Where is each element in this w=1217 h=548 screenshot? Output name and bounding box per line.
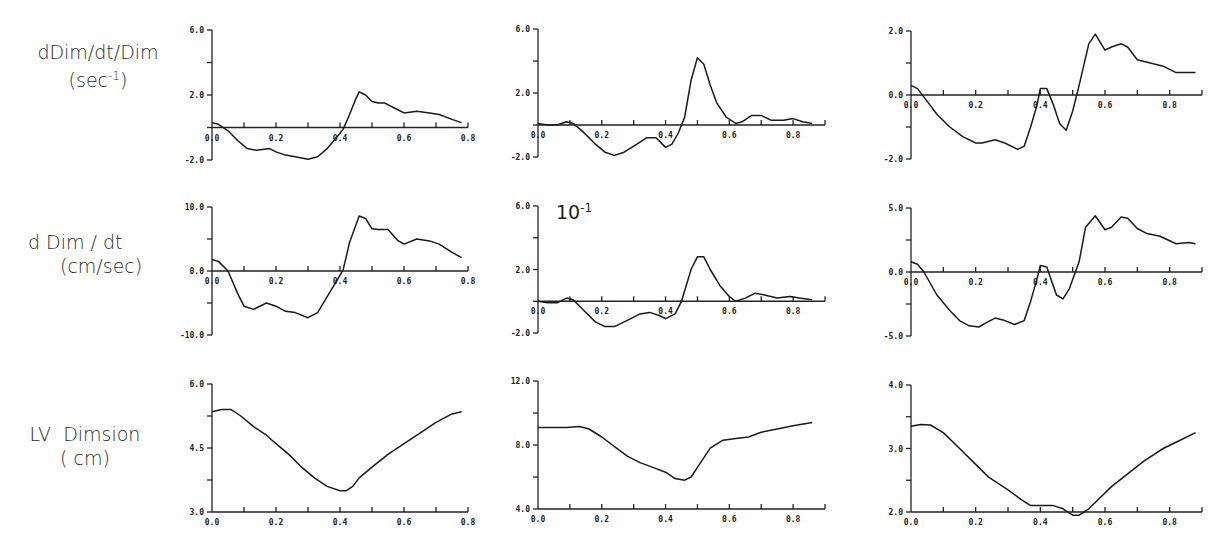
- x-tick-label: 0.8: [461, 518, 476, 527]
- y-tick-label: 2.0: [516, 89, 531, 98]
- x-tick-label: 0.0: [904, 518, 919, 527]
- x-tick-label: 0.2: [595, 515, 610, 524]
- x-tick-label: 0.0: [205, 277, 220, 286]
- x-tick-label: 0.0: [531, 307, 546, 316]
- y-tick-label: 2.0: [516, 266, 531, 275]
- y-tick-label: 6.0: [516, 202, 531, 211]
- y-tick-label: 3.0: [190, 508, 205, 517]
- x-tick-label: 0.0: [205, 518, 220, 527]
- row-label-line2: ( cm): [20, 446, 150, 470]
- data-curve: [212, 216, 462, 318]
- x-tick-label: 0.2: [968, 278, 983, 287]
- y-tick-label: 6.0: [516, 25, 531, 34]
- x-tick-label: 0.4: [658, 515, 673, 524]
- scale-factor-note: 10-1: [556, 201, 592, 223]
- x-tick-label: 0.2: [968, 101, 983, 110]
- y-tick-label: -2.0: [185, 156, 204, 165]
- panel-r1-c2: -5.00.05.00.00.20.40.60.8: [884, 204, 1202, 341]
- x-tick-label: 0.6: [722, 131, 737, 140]
- panel-r0-c2: -2.00.02.00.00.20.40.60.8: [884, 27, 1202, 164]
- x-tick-label: 0.8: [1162, 101, 1177, 110]
- figure: -2.02.06.00.00.20.40.60.8-2.02.06.00.00.…: [0, 0, 1217, 548]
- data-curve: [538, 423, 812, 481]
- panel-r0-c0: -2.02.06.00.00.20.40.60.8: [185, 26, 476, 165]
- panel-r0-c1: -2.02.06.00.00.20.40.60.8: [511, 25, 825, 162]
- y-tick-label: 3.0: [889, 445, 904, 454]
- row-label-line2: (cm/sec): [20, 254, 180, 278]
- y-tick-label: 12.0: [511, 377, 530, 386]
- x-tick-label: 0.4: [1033, 518, 1048, 527]
- x-tick-label: 0.2: [595, 131, 610, 140]
- panel-r1-c0: -10.00.010.00.00.20.40.60.8: [180, 203, 476, 340]
- x-tick-label: 0.8: [1162, 278, 1177, 287]
- data-curve: [911, 424, 1196, 515]
- data-curve: [538, 58, 812, 156]
- x-tick-label: 0.2: [269, 277, 284, 286]
- x-tick-label: 0.6: [397, 277, 412, 286]
- x-tick-label: 0.0: [205, 134, 220, 143]
- y-tick-label: 6.0: [190, 380, 205, 389]
- x-tick-label: 0.8: [786, 515, 801, 524]
- x-tick-label: 0.6: [722, 515, 737, 524]
- data-curve: [212, 410, 462, 491]
- x-tick-label: 0.6: [1098, 278, 1113, 287]
- x-tick-label: 0.0: [904, 278, 919, 287]
- y-tick-label: 8.0: [516, 441, 531, 450]
- y-tick-label: 5.0: [889, 204, 904, 213]
- x-tick-label: 0.6: [1098, 518, 1113, 527]
- y-tick-label: 0.0: [190, 267, 205, 276]
- y-tick-label: -2.0: [511, 329, 530, 338]
- row-label-line1: d Dim / dt: [20, 230, 180, 254]
- y-tick-label: 4.0: [516, 505, 531, 514]
- y-tick-label: -5.0: [884, 332, 903, 341]
- x-tick-label: 0.0: [531, 515, 546, 524]
- row-label-relative-rate: dDim/dt/Dim (sec-1): [18, 40, 178, 92]
- x-tick-label: 0.0: [904, 101, 919, 110]
- x-tick-label: 0.2: [968, 518, 983, 527]
- x-tick-label: 0.2: [595, 307, 610, 316]
- x-tick-label: 0.4: [658, 307, 673, 316]
- y-tick-label: 4.0: [889, 381, 904, 390]
- x-tick-label: 0.4: [333, 134, 348, 143]
- x-tick-label: 0.6: [1098, 101, 1113, 110]
- y-tick-label: 0.0: [889, 268, 904, 277]
- x-tick-label: 0.8: [1162, 518, 1177, 527]
- x-tick-label: 0.6: [397, 134, 412, 143]
- y-tick-label: 2.0: [889, 508, 904, 517]
- data-curve: [538, 257, 812, 327]
- row-label-line1: LV Dimsion: [20, 422, 150, 446]
- x-tick-label: 0.4: [333, 518, 348, 527]
- y-tick-label: 2.0: [889, 27, 904, 36]
- x-tick-label: 0.4: [658, 131, 673, 140]
- y-tick-label: -10.0: [180, 331, 204, 340]
- y-tick-label: -2.0: [884, 155, 903, 164]
- x-tick-label: 0.2: [269, 518, 284, 527]
- x-tick-label: 0.8: [786, 307, 801, 316]
- x-tick-label: 0.8: [461, 134, 476, 143]
- y-tick-label: 2.0: [190, 91, 205, 100]
- x-tick-label: 0.8: [461, 277, 476, 286]
- row-label-dimension: LV Dimsion ( cm): [20, 422, 150, 470]
- panel-r2-c0: 3.04.56.00.00.20.40.60.8: [190, 380, 476, 527]
- panel-r2-c2: 2.03.04.00.00.20.40.60.8: [889, 381, 1202, 527]
- panel-r2-c1: 4.08.012.00.00.20.40.60.8: [511, 377, 825, 524]
- plot-grid: -2.02.06.00.00.20.40.60.8-2.02.06.00.00.…: [0, 0, 1217, 548]
- y-tick-label: 6.0: [190, 26, 205, 35]
- row-label-velocity: d Dim / dt (cm/sec): [20, 230, 180, 278]
- x-tick-label: 0.6: [722, 307, 737, 316]
- y-tick-label: 10.0: [185, 203, 204, 212]
- y-tick-label: -2.0: [511, 153, 530, 162]
- y-tick-label: 0.0: [889, 91, 904, 100]
- y-tick-label: 4.5: [190, 444, 205, 453]
- row-label-line2: (sec-1): [18, 64, 178, 92]
- row-label-line1: dDim/dt/Dim: [18, 40, 178, 64]
- x-tick-label: 0.0: [531, 131, 546, 140]
- x-tick-label: 0.8: [786, 131, 801, 140]
- x-tick-label: 0.6: [397, 518, 412, 527]
- data-curve: [212, 92, 462, 159]
- x-tick-label: 0.2: [269, 134, 284, 143]
- data-curve: [911, 34, 1196, 149]
